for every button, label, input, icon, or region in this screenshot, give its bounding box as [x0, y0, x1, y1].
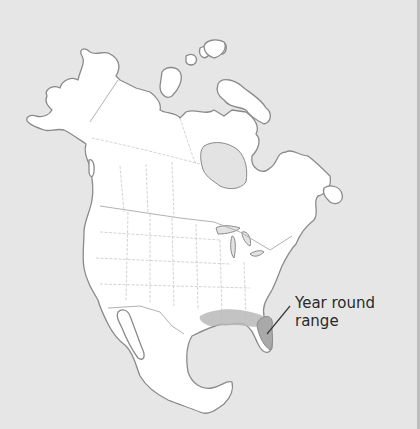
newfoundland — [323, 186, 342, 204]
arctic-island-1 — [160, 68, 181, 98]
north-america-map — [0, 0, 417, 429]
arctic-island-2 — [186, 54, 196, 65]
vancouver-island — [89, 160, 94, 177]
mainland — [27, 49, 331, 413]
range-label-line1: Year round — [295, 294, 375, 312]
range-label: Year round range — [295, 294, 375, 330]
range-label-line2: range — [295, 312, 375, 330]
